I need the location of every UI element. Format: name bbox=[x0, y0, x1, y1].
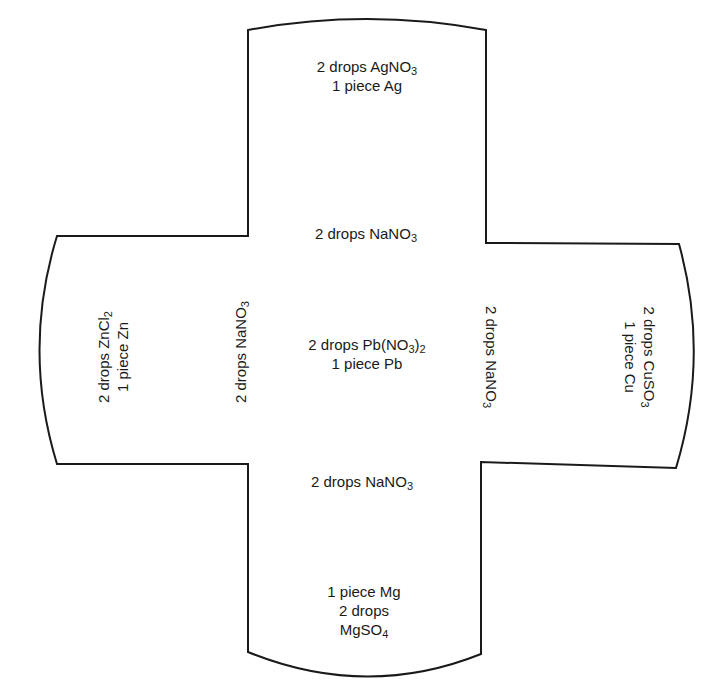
left-well-label: 2 drops ZnCl2 1 piece Zn bbox=[94, 311, 132, 403]
bottom-inner-label: 2 drops NaNO3 bbox=[311, 472, 413, 491]
bottom-well-label: 1 piece Mg 2 drops MgSO4 bbox=[327, 582, 400, 639]
right-inner-label: 2 drops NaNO3 bbox=[482, 306, 501, 408]
top-inner-label: 2 drops NaNO3 bbox=[315, 224, 417, 243]
right-well-label: 2 drops CuSO3 1 piece Cu bbox=[621, 306, 659, 407]
left-inner-label: 2 drops NaNO3 bbox=[231, 301, 250, 403]
top-well-label: 2 drops AgNO3 1 piece Ag bbox=[317, 57, 417, 95]
center-well-label: 2 drops Pb(NO3)2 1 piece Pb bbox=[308, 335, 425, 373]
